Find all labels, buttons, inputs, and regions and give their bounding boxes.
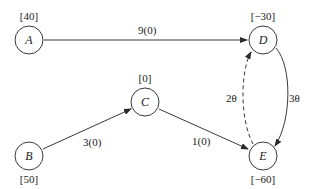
node-b: B [50] [15,142,43,185]
node-d-supply: [−30] [251,10,276,22]
node-a: A [40] [15,10,43,54]
node-e-supply: [−60] [251,173,276,185]
node-c: C [0] [131,72,159,116]
node-c-label: C [141,95,150,109]
node-a-label: A [24,33,33,47]
edge-e-d-label: 2θ [226,92,237,104]
node-a-supply: [40] [20,10,38,22]
edge-b-c-label: 3(0) [83,136,102,149]
edge-c-e-label: 1(0) [192,135,211,148]
node-d: D [−30] [249,10,277,54]
edge-a-d: 9(0) [44,24,247,40]
edge-a-d-label: 9(0) [138,24,157,37]
edge-e-d-dashed: 2θ [226,52,253,144]
node-b-label: B [25,149,33,163]
node-c-supply: [0] [139,72,152,84]
node-e: E [−60] [249,142,277,185]
node-b-supply: [50] [20,173,38,185]
node-d-label: D [258,33,268,47]
node-e-label: E [258,149,267,163]
edge-b-c: 3(0) [43,109,131,149]
edge-d-e: 3θ [275,48,300,146]
edge-c-e: 1(0) [159,109,248,149]
network-diagram: 9(0) 3(0) 1(0) 3θ 2θ A [40] B [50] C [0]… [0,0,319,189]
edge-d-e-label: 3θ [289,92,300,104]
